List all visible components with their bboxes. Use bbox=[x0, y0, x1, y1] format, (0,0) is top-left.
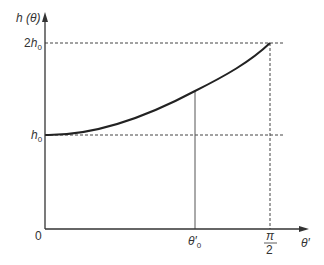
y-tick-h0: h0 bbox=[31, 128, 43, 144]
curve-h-theta bbox=[45, 43, 270, 135]
origin-label: 0 bbox=[35, 229, 42, 243]
x-tick-pi-numerator: π bbox=[266, 229, 275, 243]
x-tick-pi-denominator: 2 bbox=[266, 243, 273, 257]
chart-canvas: h (θ) 2h0 h0 0 θ′0 π 2 θ′ bbox=[0, 0, 324, 265]
y-tick-2h0: 2h0 bbox=[24, 36, 42, 52]
x-axis-arrow-icon bbox=[299, 226, 309, 232]
x-tick-theta0: θ′0 bbox=[188, 234, 202, 250]
y-axis-arrow-icon bbox=[42, 12, 48, 22]
y-axis-label: h (θ) bbox=[16, 11, 41, 25]
x-axis-label: θ′ bbox=[301, 236, 311, 250]
